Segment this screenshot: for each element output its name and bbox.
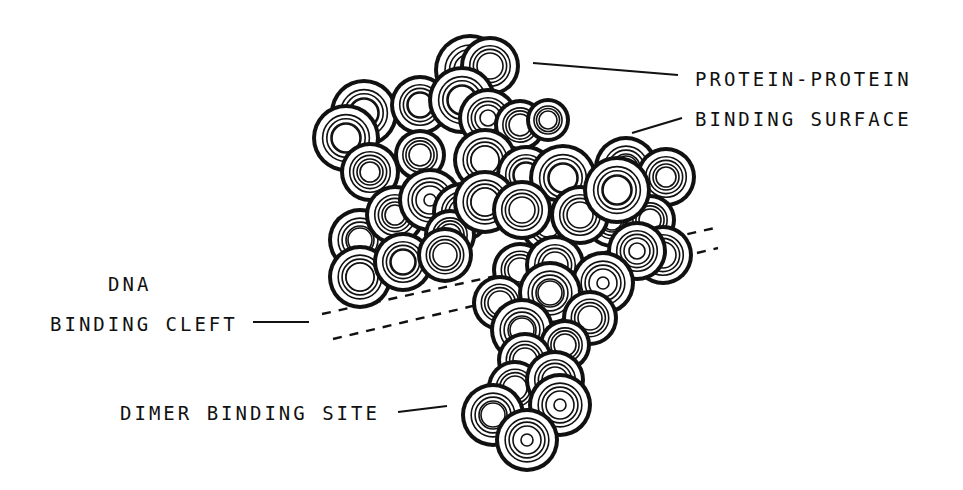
atom-sphere	[417, 227, 473, 283]
protein-protein-label-line2: BINDING SURFACE	[695, 110, 912, 129]
dimer-site-leader	[398, 406, 447, 412]
protein-protein-label-line1: PROTEIN-PROTEIN	[695, 70, 912, 89]
dna-binding-cleft-label-line2: BINDING CLEFT	[50, 315, 238, 334]
dimer-binding-site-label: DIMER BINDING SITE	[120, 404, 380, 423]
protein-protein-leader-top	[533, 63, 678, 75]
atom-sphere	[492, 180, 552, 240]
protein-protein-leader-bottom	[632, 118, 682, 133]
atom-sphere	[583, 156, 651, 224]
atom-sphere	[526, 98, 570, 142]
dna-binding-cleft-label-line1: DNA	[108, 275, 151, 294]
atom-sphere	[495, 408, 559, 472]
protein-structure-figure: PROTEIN-PROTEIN BINDING SURFACE DNA BIND…	[0, 0, 963, 490]
